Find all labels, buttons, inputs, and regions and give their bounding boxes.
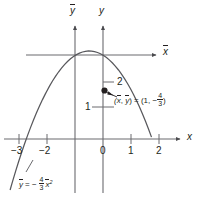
y-bar-axis-label: y (70, 6, 75, 16)
centroid-point-marker (101, 87, 107, 93)
equation-fraction: 4 3 (39, 176, 45, 192)
y-tick-label-2: 2 (117, 77, 123, 87)
centroid-label-values: ) = (1, − (129, 96, 157, 105)
x-tick-label-neg3: −3 (11, 146, 22, 156)
x-tick-label-0: 0 (100, 146, 106, 156)
plot-area (0, 0, 201, 201)
x-tick-label-2: 2 (156, 146, 162, 156)
x-tick-label-1: 1 (128, 146, 134, 156)
parabola-curve (10, 51, 151, 190)
y-axis-label: y (99, 6, 104, 16)
centroid-point-label: (x, y) = (1, − 4 3 ) (114, 92, 166, 108)
x-tick-label-neg2: −2 (39, 146, 50, 156)
centroid-leader-arrowhead (107, 91, 113, 95)
y-bar-glyph: y (70, 6, 75, 16)
equation-x-bar: x (45, 181, 49, 189)
x-bar-axis-label: x (163, 47, 168, 57)
x-axis-label: x (187, 132, 192, 142)
equation-exponent: 2 (49, 179, 52, 185)
centroid-label-y-bar: y (125, 97, 129, 105)
x-bar-glyph: x (163, 47, 168, 57)
y-tick-label-1: 1 (85, 102, 91, 112)
equation-leader-line (26, 160, 33, 172)
centroid-label-x-bar: x (117, 97, 121, 105)
centroid-label-close-paren: ) (163, 96, 166, 105)
equation-equals-sign: = − (23, 180, 39, 189)
equation-fraction-denominator: 3 (39, 183, 45, 191)
figure-canvas: y y x x −3 −2 0 1 2 2 1 (x, y) = (1, − 4… (0, 0, 201, 201)
equation-y-bar: y (19, 181, 23, 189)
equation-fraction-numerator: 4 (39, 176, 45, 183)
curve-equation-label: y= − 4 3 x2 (19, 176, 53, 192)
